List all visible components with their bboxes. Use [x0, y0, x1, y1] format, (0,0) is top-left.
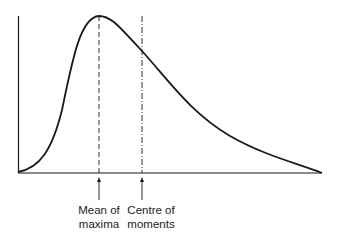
- distribution-curve: [18, 16, 322, 173]
- centre-of-moments-label-line1: Centre of: [116, 203, 186, 217]
- mean-of-maxima-arrow-icon: [97, 177, 101, 182]
- centre-of-moments-label-line2: moments: [116, 217, 186, 231]
- centre-of-moments-arrow-icon: [140, 177, 144, 182]
- centre-of-moments-label: Centre of moments: [116, 203, 186, 231]
